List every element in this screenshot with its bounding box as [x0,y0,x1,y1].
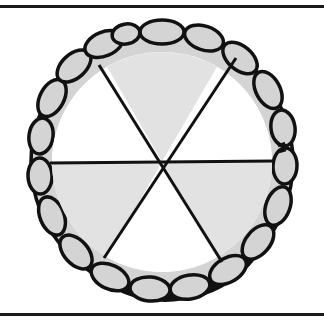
pie-illustration [0,0,324,320]
cut-line-horizontal [50,161,274,163]
pie-filling [50,52,274,272]
